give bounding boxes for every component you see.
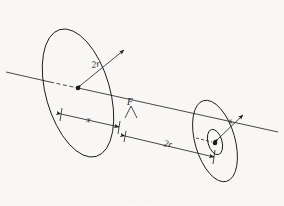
optical-axis-line-left-solid	[6, 72, 50, 82]
optical-axis-line-dashed	[50, 82, 78, 88]
small-disc-radius-label: x	[226, 115, 233, 126]
center-span-label: 2r	[163, 138, 174, 150]
small-lens-axis-dashed	[196, 138, 212, 142]
focal-point-caret-left	[125, 106, 131, 118]
large-lens-center-dot	[76, 86, 81, 91]
figure-container: 2r x F 2r x Fig. 7.14	[0, 0, 284, 206]
x-dimension-label: x	[85, 114, 92, 125]
figure-caption: Fig. 7.14	[0, 198, 284, 205]
large-disc-radius-arrow	[81, 50, 124, 85]
x-dimension-right-tick	[118, 121, 120, 134]
focal-point-caret-right	[131, 106, 137, 118]
large-lens-ellipse	[29, 21, 127, 166]
small-lens-center-dot	[213, 141, 218, 146]
optical-axis-line-main	[78, 88, 278, 132]
diagram-canvas: 2r x F 2r x	[0, 0, 284, 206]
focal-point-label: F	[126, 97, 133, 107]
